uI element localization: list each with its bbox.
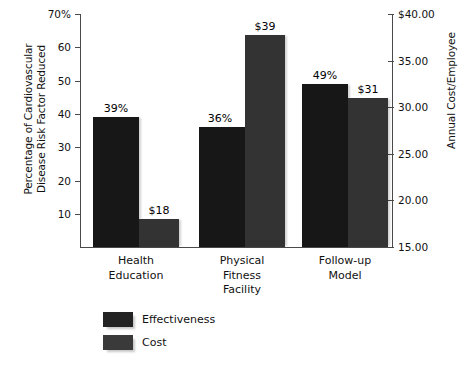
value-label-effectiveness-follow-up-model: 49%	[302, 70, 348, 82]
category-label-follow-up-model: Follow-up Model	[295, 254, 395, 283]
legend-swatch-effectiveness	[103, 312, 133, 327]
y-tick-label-left-20: 20	[58, 176, 71, 187]
chart-legend: Effectiveness Cost	[103, 312, 215, 358]
y-tick-left-60	[75, 47, 81, 48]
y-tick-left-20	[75, 181, 81, 182]
category-label-physical-fitness-facility-line1: Physical	[192, 254, 292, 269]
value-label-cost-physical-fitness-facility: $39	[245, 21, 285, 33]
y-tick-right-25	[388, 154, 394, 155]
y-tick-right-20	[388, 200, 394, 201]
legend-item-effectiveness: Effectiveness	[103, 312, 215, 327]
y-axis-left-title-line1: Percentage of Cardiovascular	[22, 43, 34, 194]
value-label-cost-follow-up-model: $31	[348, 84, 388, 96]
y-tick-label-left-50: 50	[58, 76, 71, 87]
y-tick-left-70	[75, 14, 81, 15]
category-label-physical-fitness-facility-line3: Facility	[192, 283, 292, 298]
legend-label-cost: Cost	[142, 336, 166, 349]
y-tick-label-left-30: 30	[58, 142, 71, 153]
y-tick-label-right-25: 25.00	[398, 149, 428, 160]
y-axis-left-line	[80, 14, 81, 248]
y-tick-right-15	[388, 247, 394, 248]
bar-effectiveness-physical-fitness-facility	[199, 127, 245, 247]
bar-cost-follow-up-model	[348, 98, 388, 247]
y-axis-right-title: Annual Cost/Employee	[445, 11, 458, 171]
category-label-health-education-line1: Health	[86, 254, 186, 269]
bar-cost-health-education	[139, 219, 179, 247]
bar-cost-physical-fitness-facility	[245, 35, 285, 247]
value-label-effectiveness-physical-fitness-facility: 36%	[197, 113, 243, 125]
legend-item-cost: Cost	[103, 335, 215, 350]
category-label-health-education: Health Education	[86, 254, 186, 283]
category-label-physical-fitness-facility-line2: Fitness	[192, 269, 292, 284]
y-axis-right-line	[392, 14, 393, 248]
y-tick-label-left-10: 10	[58, 209, 71, 220]
y-tick-right-35	[388, 61, 394, 62]
x-axis-baseline	[80, 247, 393, 248]
legend-label-effectiveness: Effectiveness	[142, 313, 215, 326]
bar-effectiveness-follow-up-model	[302, 84, 348, 247]
y-tick-label-left-40: 40	[58, 109, 71, 120]
value-label-cost-health-education: $18	[139, 205, 179, 217]
y-tick-label-left-60: 60	[58, 42, 71, 53]
y-tick-left-50	[75, 81, 81, 82]
y-tick-left-30	[75, 147, 81, 148]
y-tick-left-40	[75, 114, 81, 115]
y-tick-label-right-35: 35.00	[398, 56, 428, 67]
bar-effectiveness-health-education	[93, 117, 139, 247]
y-tick-label-right-20: 20.00	[398, 195, 428, 206]
category-label-follow-up-model-line2: Model	[295, 269, 395, 284]
y-tick-right-30	[388, 107, 394, 108]
category-label-health-education-line2: Education	[86, 269, 186, 284]
legend-swatch-cost	[103, 335, 133, 350]
y-tick-label-right-30: 30.00	[398, 102, 428, 113]
y-axis-left-title-line2: Disease Risk Factor Reduced	[35, 24, 48, 214]
y-axis-left-title: Percentage of Cardiovascular Disease Ris…	[22, 24, 48, 214]
bar-chart: Percentage of Cardiovascular Disease Ris…	[0, 0, 473, 365]
category-label-follow-up-model-line1: Follow-up	[295, 254, 395, 269]
y-tick-label-left-70: 70%	[48, 9, 71, 20]
category-label-physical-fitness-facility: Physical Fitness Facility	[192, 254, 292, 298]
y-tick-label-right-40: $40.00	[398, 9, 435, 20]
y-tick-left-10	[75, 214, 81, 215]
y-tick-label-right-15: 15.00	[398, 242, 428, 253]
value-label-effectiveness-health-education: 39%	[93, 103, 139, 115]
y-tick-right-40	[388, 14, 394, 15]
